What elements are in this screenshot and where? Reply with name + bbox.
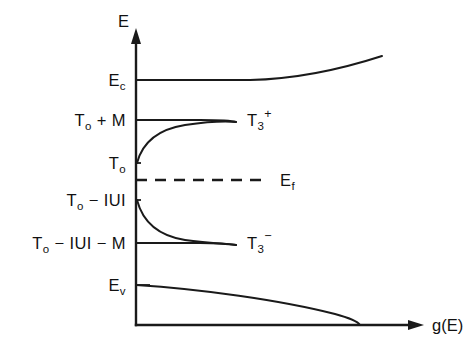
label-Ec-base: E [108,71,119,89]
label-T3-plus: T3+ [247,107,272,132]
label-T3-plus-sup: + [264,107,272,121]
energy-axis-arrow-icon [131,28,141,44]
label-T3-minus-sub: 3 [257,243,264,255]
label-T3-minus-base: T [247,234,257,252]
label-To-sub: o [119,163,126,175]
label-T3-plus-sub: 3 [257,120,264,132]
density-of-states-figure: E g(E) Ec To + M To [0,0,468,352]
label-To-base: T [109,154,119,172]
label-Ef-sub: f [291,180,295,192]
label-To-minus-U-base: T [66,191,76,209]
curve-T3-plus-lower [137,122,236,163]
label-To-minus-U-minus-M-base: T [32,234,42,252]
label-To-minus-U-sub: o [77,200,84,212]
label-To-minus-U: To − IUI [66,191,126,212]
energy-axis-label: E [118,12,129,30]
label-Ev-base: E [108,276,119,294]
density-axis-label: g(E) [432,316,463,334]
diagram-canvas: E g(E) Ec To + M To [0,0,468,352]
label-To-minus-U-minus-M-sub: o [43,243,50,255]
label-Ef: Ef [280,171,295,192]
label-To-minus-U-minus-M-suffix: − IUI − M [50,234,126,252]
label-Ev-sub: v [120,285,126,297]
label-T3-minus-sup: − [264,229,272,243]
curve-conduction-band-Ec [136,56,382,80]
label-To-minus-U-minus-M: To − IUI − M [32,234,126,255]
label-To-plus-M-suffix: + M [92,111,126,129]
label-Ec-sub: c [120,80,126,92]
band-curves-group [136,56,382,325]
density-axis-label-var: E [447,316,458,334]
label-T3-plus-base: T [247,111,257,129]
label-T3-minus: T3− [247,229,272,255]
label-To-plus-M: To + M [75,111,126,132]
label-To-plus-M-sub: o [85,120,92,132]
y-axis-labels-group: Ec To + M To To − IUI To − IUI − M Ev [32,71,126,297]
label-To-plus-M-base: T [75,111,85,129]
density-axis-label-paren-close: ) [458,316,464,334]
level-lines-group [136,80,250,285]
label-Ef-base: E [280,171,291,189]
density-axis-arrow-icon [408,320,424,330]
curve-T3-minus-upper [137,200,236,245]
label-Ev: Ev [108,276,126,297]
curve-valence-band-Ev [136,285,360,325]
density-axis-label-g: g [432,316,441,334]
svg-text:g(E): g(E) [432,316,463,334]
label-To: To [109,154,126,175]
label-Ec: Ec [108,71,126,92]
label-To-minus-U-suffix: − IUI [84,191,126,209]
